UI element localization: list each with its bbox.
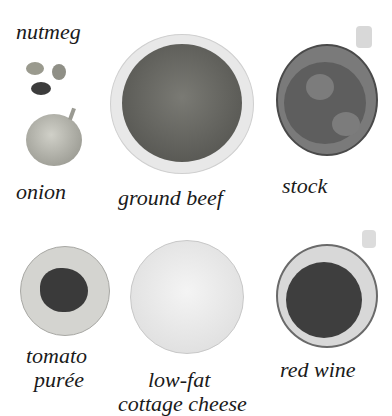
ground-beef-image	[110, 34, 254, 174]
label-puree: purée	[34, 368, 84, 392]
label-tomato: tomato	[26, 344, 87, 368]
cottage-cheese-image	[130, 240, 244, 354]
tomato-puree-image	[20, 246, 112, 338]
stock-image	[276, 22, 392, 162]
label-red-wine: red wine	[280, 358, 356, 382]
nutmeg-image	[24, 60, 74, 100]
label-cottage-cheese: cottage cheese	[118, 392, 247, 416]
label-nutmeg: nutmeg	[16, 20, 81, 44]
label-ground-beef: ground beef	[118, 186, 223, 210]
label-stock: stock	[282, 174, 327, 198]
label-low-fat: low-fat	[148, 368, 210, 392]
onion-image	[26, 108, 86, 168]
label-onion: onion	[16, 180, 66, 204]
red-wine-image	[276, 230, 392, 350]
